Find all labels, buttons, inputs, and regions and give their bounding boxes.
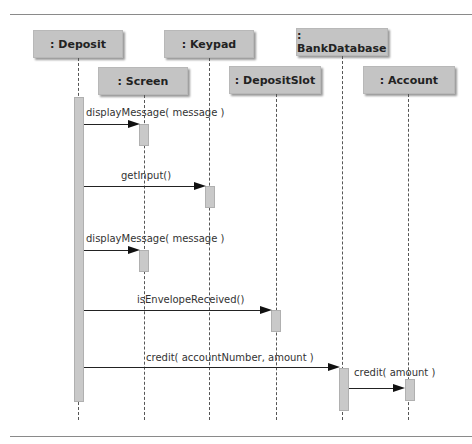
message-arrow — [84, 367, 330, 368]
activation-keypad — [205, 186, 215, 208]
arrowhead-icon — [393, 384, 405, 392]
lifeline-bankdatabase — [342, 56, 343, 420]
arrowhead-icon — [128, 120, 140, 128]
object-screen: : Screen — [98, 67, 188, 95]
activation-screen-2 — [139, 250, 149, 272]
message-label: credit( amount ) — [354, 367, 435, 378]
arrowhead-icon — [260, 306, 272, 314]
object-account: : Account — [363, 66, 455, 94]
message-arrow — [84, 250, 130, 251]
activation-depositslot — [271, 310, 281, 332]
message-arrow — [84, 310, 262, 311]
top-rule — [10, 14, 472, 15]
message-label: displayMessage( message ) — [86, 107, 224, 118]
object-bankdatabase: : BankDatabase — [296, 28, 388, 56]
object-depositslot: : DepositSlot — [229, 66, 321, 94]
activation-deposit — [74, 97, 84, 402]
message-arrow — [84, 186, 196, 187]
message-label: getInput() — [121, 170, 171, 181]
arrowhead-icon — [194, 182, 206, 190]
arrowhead-icon — [128, 246, 140, 254]
activation-screen-1 — [139, 124, 149, 146]
message-label: isEnvelopeReceived() — [137, 294, 244, 305]
activation-bankdatabase — [339, 368, 349, 411]
message-arrow — [84, 124, 130, 125]
arrowhead-icon — [328, 363, 340, 371]
message-label: displayMessage( message ) — [86, 233, 224, 244]
bottom-rule — [10, 436, 472, 437]
object-keypad: : Keypad — [164, 30, 254, 58]
lifeline-depositslot — [276, 94, 277, 420]
activation-account — [405, 379, 415, 401]
message-label: credit( accountNumber, amount ) — [146, 352, 314, 363]
object-deposit: : Deposit — [33, 30, 123, 58]
message-arrow — [349, 388, 395, 389]
